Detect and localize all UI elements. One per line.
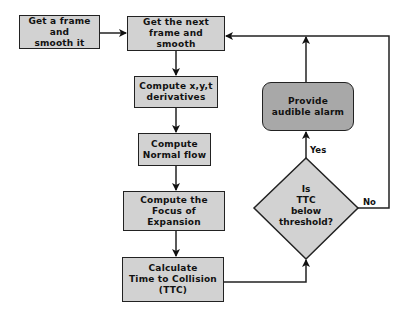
node-audible-alarm: Provide audible alarm (262, 82, 354, 131)
node-time-to-collision: Calculate Time to Collision (TTC) (122, 257, 224, 302)
decision-label: Is TTC below threshold? (266, 184, 346, 228)
no-label: No (363, 197, 376, 207)
node-normal-flow: Compute Normal flow (138, 133, 211, 166)
yes-label: Yes (310, 145, 326, 155)
node-next-frame: Get the next frame and smooth (127, 16, 225, 51)
node-get-frame: Get a frame and smooth it (19, 15, 100, 49)
flowchart-canvas: Get a frame and smooth it Get the next f… (0, 0, 404, 320)
node-derivatives: Compute x,y,t derivatives (134, 76, 218, 108)
node-focus-of-expansion: Compute the Focus of Expansion (123, 191, 225, 231)
arrow-ttc-to-decision (224, 260, 306, 282)
